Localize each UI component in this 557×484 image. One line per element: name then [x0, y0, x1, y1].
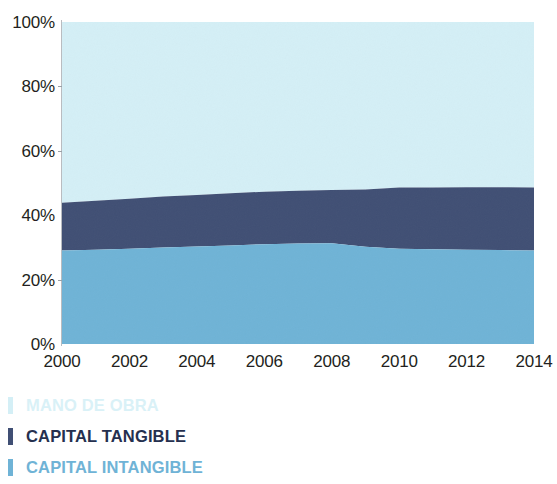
plot-area: [62, 22, 534, 344]
y-tick-label-40: 40%: [5, 207, 55, 224]
y-tick-label-60: 60%: [5, 143, 55, 160]
legend-item-capital-intangible: CAPITAL INTANGIBLE: [8, 452, 408, 483]
y-tick-label-100: 100%: [5, 14, 55, 31]
legend-item-mano-de-obra: MANO DE OBRA: [8, 390, 408, 421]
x-tick-label-2006: 2006: [234, 353, 294, 370]
x-tick-label-2012: 2012: [437, 353, 497, 370]
legend-swatch-mano-de-obra: [8, 397, 13, 414]
legend-swatch-capital-tangible: [8, 428, 13, 445]
x-tick-label-2008: 2008: [302, 353, 362, 370]
area-band-mano-de-obra: [62, 22, 534, 203]
legend-swatch-capital-intangible: [8, 459, 13, 476]
x-tick-label-2014: 2014: [504, 353, 557, 370]
x-tick-label-2000: 2000: [32, 353, 92, 370]
x-axis-labels: 2000 2002 2004 2006 2008 2010 2012 2014: [0, 353, 549, 379]
legend-label-capital-intangible: CAPITAL INTANGIBLE: [26, 459, 203, 476]
area-series-svg: [62, 22, 534, 344]
legend-label-capital-tangible: CAPITAL TANGIBLE: [26, 428, 186, 445]
y-tick-label-20: 20%: [5, 272, 55, 289]
legend-item-capital-tangible: CAPITAL TANGIBLE: [8, 421, 408, 452]
y-tick-label-0: 0%: [5, 336, 55, 353]
legend-label-mano-de-obra: MANO DE OBRA: [26, 397, 159, 414]
area-bands: [62, 22, 534, 344]
area-band-capital-intangible: [62, 243, 534, 344]
x-tick-label-2004: 2004: [167, 353, 227, 370]
chart-legend: MANO DE OBRA CAPITAL TANGIBLE CAPITAL IN…: [8, 390, 408, 483]
x-tick-label-2002: 2002: [99, 353, 159, 370]
x-tick-label-2010: 2010: [369, 353, 429, 370]
y-tick-label-80: 80%: [5, 78, 55, 95]
